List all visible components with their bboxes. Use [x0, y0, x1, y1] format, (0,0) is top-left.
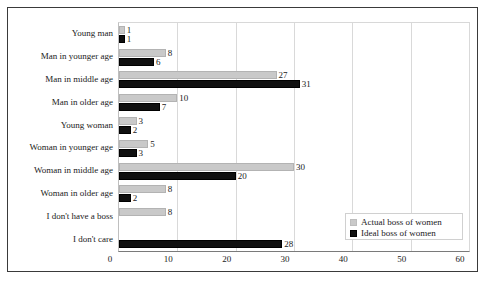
x-axis-tick-0: 0 — [108, 254, 113, 264]
bar-ideal: 7 — [119, 103, 160, 111]
bar-ideal: 20 — [119, 172, 236, 180]
x-axis-tick-10: 10 — [164, 254, 173, 264]
category-label: Woman in older age — [40, 189, 113, 198]
bar-actual: 8 — [119, 208, 166, 216]
bar-value-label: 2 — [133, 125, 138, 135]
x-axis-tick-20: 20 — [222, 254, 231, 264]
chart-legend: Actual boss of women Ideal boss of women — [345, 213, 463, 240]
legend-label-actual: Actual boss of women — [361, 217, 442, 227]
bar-actual: 8 — [119, 49, 166, 57]
bar-value-label: 6 — [156, 57, 161, 67]
chart-row: Young woman32 — [119, 114, 469, 137]
bar-actual: 27 — [119, 71, 277, 79]
legend-item-ideal: Ideal boss of women — [350, 228, 458, 238]
bar-value-label: 28 — [284, 239, 293, 249]
bar-actual: 30 — [119, 163, 294, 171]
category-label: I don't have a boss — [46, 212, 113, 221]
bar-actual: 10 — [119, 94, 177, 102]
x-axis-tick-40: 40 — [339, 254, 348, 264]
bar-actual: 8 — [119, 185, 166, 193]
chart-row: Woman in younger age53 — [119, 137, 469, 160]
bar-ideal: 2 — [119, 194, 131, 202]
legend-swatch-actual-icon — [350, 219, 357, 226]
legend-swatch-ideal-icon — [350, 230, 357, 237]
chart-frame: Young man11Man in younger age86Man in mi… — [7, 7, 478, 272]
chart-row: Woman in older age82 — [119, 183, 469, 206]
bar-value-label: 3 — [139, 116, 144, 126]
bar-value-label: 8 — [168, 207, 173, 217]
bar-ideal: 1 — [119, 35, 125, 43]
chart-row: Woman in middle age3020 — [119, 160, 469, 183]
chart-row: Man in middle age2731 — [119, 69, 469, 92]
bar-ideal: 31 — [119, 80, 300, 88]
bar-value-label: 1 — [127, 34, 132, 44]
bar-actual: 1 — [119, 26, 125, 34]
category-label: I don't care — [73, 235, 113, 244]
gridline-60 — [469, 23, 470, 251]
bar-value-label: 3 — [139, 148, 144, 158]
bar-actual: 5 — [119, 140, 148, 148]
legend-item-actual: Actual boss of women — [350, 217, 458, 227]
x-axis-tick-50: 50 — [397, 254, 406, 264]
bar-ideal: 6 — [119, 58, 154, 66]
chart-row: Young man11 — [119, 23, 469, 46]
category-label: Woman in younger age — [29, 144, 113, 153]
chart-row: Man in older age107 — [119, 91, 469, 114]
bar-ideal: 2 — [119, 126, 131, 134]
x-axis-tick-60: 60 — [456, 254, 465, 264]
bar-value-label: 8 — [168, 184, 173, 194]
chart-figure: Young man11Man in younger age86Man in mi… — [0, 0, 488, 282]
bar-value-label: 27 — [279, 70, 288, 80]
category-label: Young woman — [61, 121, 113, 130]
bar-value-label: 30 — [296, 162, 305, 172]
bar-value-label: 31 — [302, 79, 311, 89]
bar-ideal: 3 — [119, 149, 137, 157]
bar-value-label: 5 — [150, 139, 155, 149]
bar-value-label: 10 — [179, 93, 188, 103]
category-label: Man in middle age — [45, 75, 113, 84]
bar-actual: 3 — [119, 117, 137, 125]
bar-value-label: 2 — [133, 193, 138, 203]
bar-value-label: 8 — [168, 48, 173, 58]
category-label: Man in younger age — [41, 52, 113, 61]
category-label: Young man — [72, 30, 113, 39]
bar-value-label: 7 — [162, 102, 167, 112]
bar-ideal: 28 — [119, 240, 282, 248]
chart-row: Man in younger age86 — [119, 46, 469, 69]
category-label: Man in older age — [52, 98, 113, 107]
legend-label-ideal: Ideal boss of women — [361, 228, 436, 238]
category-label: Woman in middle age — [34, 166, 113, 175]
x-axis-tick-30: 30 — [281, 254, 290, 264]
bar-value-label: 20 — [238, 171, 247, 181]
